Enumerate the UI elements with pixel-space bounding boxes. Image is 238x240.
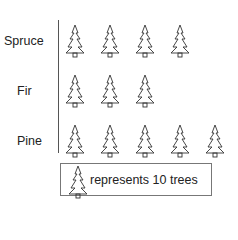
icon-group — [64, 74, 169, 108]
icon-group — [64, 124, 238, 158]
row-spruce: Spruce — [0, 24, 238, 64]
legend-text: represents 10 trees — [90, 173, 198, 187]
tree-icon — [64, 74, 99, 108]
tree-icon — [99, 124, 134, 158]
tree-icon — [99, 74, 134, 108]
tree-icon — [134, 74, 169, 108]
tree-icon — [134, 124, 169, 158]
tree-icon — [64, 124, 99, 158]
tree-icon — [134, 24, 169, 58]
icon-group — [64, 24, 204, 58]
row-fir: Fir — [0, 74, 238, 114]
tree-icon — [64, 24, 99, 58]
tree-icon — [169, 124, 204, 158]
tree-icon — [204, 124, 238, 158]
tree-icon — [169, 24, 204, 58]
row-label: Spruce — [4, 34, 59, 48]
tree-icon — [99, 24, 134, 58]
legend-box: represents 10 trees — [60, 163, 212, 196]
row-pine: Pine — [0, 124, 238, 164]
